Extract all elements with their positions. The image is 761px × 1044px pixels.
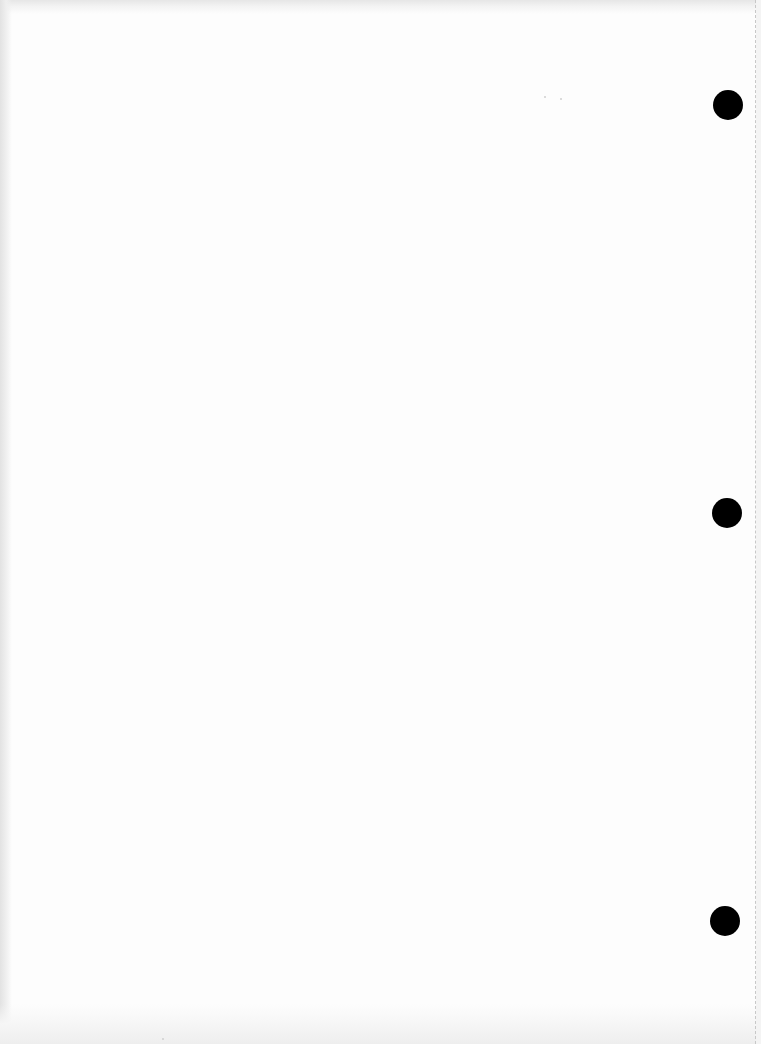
scan-speck [544,96,546,98]
scanned-page [0,0,761,1044]
scan-edge-bottom-shadow [0,1004,761,1044]
perforation-line [755,0,756,1044]
scan-edge-left-shadow [0,0,12,1044]
punch-hole-bottom [710,906,740,936]
punch-hole-top [713,90,743,120]
punch-hole-middle [712,498,742,528]
scan-speck [560,98,562,100]
right-edge-strip [756,0,761,1044]
scan-edge-top-shadow [0,0,761,14]
scan-speck [162,1038,164,1040]
